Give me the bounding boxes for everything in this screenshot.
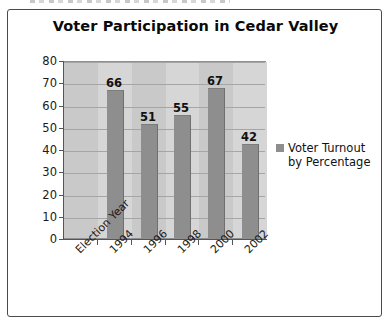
bar-value-label: 51 xyxy=(132,110,164,124)
y-axis-tick-label: 80 xyxy=(27,54,57,68)
y-axis-tick-label: 0 xyxy=(27,232,57,246)
y-axis-line xyxy=(63,61,64,240)
y-axis-tick-mark xyxy=(59,83,63,84)
y-axis-tick-mark xyxy=(59,128,63,129)
bar-value-label: 55 xyxy=(165,101,197,115)
y-axis-tick-label: 20 xyxy=(27,188,57,202)
gridline xyxy=(64,62,265,63)
y-axis-tick-mark xyxy=(59,61,63,62)
bar xyxy=(242,144,259,238)
legend-label: Voter Turnout by Percentage xyxy=(288,141,378,169)
y-axis-tick-label: 40 xyxy=(27,143,57,157)
y-axis-tick-mark xyxy=(59,106,63,107)
bar xyxy=(141,124,158,238)
bar-value-label: 42 xyxy=(233,130,265,144)
chart-figure: Voter Participation in Cedar Valley Vote… xyxy=(7,9,382,317)
bar-value-label: 67 xyxy=(199,74,231,88)
chart-title: Voter Participation in Cedar Valley xyxy=(8,18,383,34)
y-axis-tick-mark xyxy=(59,217,63,218)
gridline xyxy=(64,218,265,219)
y-axis-tick-label: 60 xyxy=(27,99,57,113)
bar xyxy=(208,88,225,238)
bar xyxy=(174,115,191,238)
y-axis-tick-label: 50 xyxy=(27,121,57,135)
legend-swatch-icon xyxy=(276,144,284,152)
y-axis-tick-mark xyxy=(59,172,63,173)
y-axis-tick-mark xyxy=(59,195,63,196)
y-axis-tick-label: 30 xyxy=(27,165,57,179)
y-axis-tick-mark xyxy=(59,150,63,151)
cropped-text-sliver xyxy=(30,0,230,3)
gridline xyxy=(64,151,265,152)
gridline xyxy=(64,84,265,85)
gridline xyxy=(64,196,265,197)
gridline xyxy=(64,173,265,174)
y-axis-tick-mark xyxy=(59,239,63,240)
plot-area xyxy=(63,61,266,239)
y-axis-tick-label: 10 xyxy=(27,210,57,224)
bar-value-label: 66 xyxy=(98,76,130,90)
y-axis-tick-label: 70 xyxy=(27,76,57,90)
